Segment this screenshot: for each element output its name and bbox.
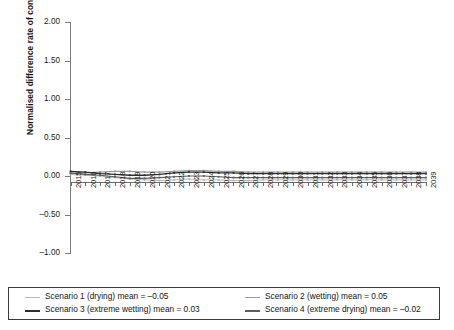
x-axis-tick	[352, 182, 353, 186]
series-marker	[410, 179, 412, 181]
x-axis-tick	[85, 182, 86, 186]
series-marker	[321, 177, 323, 179]
series-marker	[262, 173, 264, 175]
series-marker	[233, 172, 235, 174]
series-marker	[173, 172, 175, 174]
y-axis-tick	[65, 176, 71, 177]
series-marker	[114, 176, 116, 178]
x-axis-label: 2039	[429, 172, 438, 189]
x-axis-tick	[204, 182, 205, 186]
x-axis-label: 2027	[251, 172, 260, 189]
x-axis-label: 2036	[385, 172, 394, 189]
series-marker	[129, 174, 131, 176]
x-axis-tick	[130, 182, 131, 186]
series-marker	[158, 177, 160, 179]
y-axis-tick	[65, 215, 71, 216]
series-marker	[277, 173, 279, 175]
series-marker	[321, 179, 323, 181]
series-marker	[307, 177, 309, 179]
x-axis-tick	[100, 182, 101, 186]
x-axis-tick	[426, 182, 427, 186]
y-axis-label: 0.50	[0, 133, 60, 142]
x-axis-tick	[382, 182, 383, 186]
x-axis-label: 2038	[414, 172, 423, 189]
series-marker	[218, 170, 220, 172]
y-axis-tick	[65, 138, 71, 139]
series-marker	[262, 177, 264, 179]
series-marker	[262, 171, 264, 173]
x-axis-tick	[71, 182, 72, 186]
y-axis-label: 1.00	[0, 94, 60, 103]
series-marker	[173, 176, 175, 178]
x-axis-label: 2015	[74, 172, 83, 189]
series-marker	[307, 179, 309, 181]
series-marker	[321, 171, 323, 173]
series-marker	[188, 178, 190, 180]
y-axis-label: 0.00	[0, 171, 60, 180]
series-marker	[351, 171, 353, 173]
x-axis-tick	[337, 182, 338, 186]
x-axis-tick	[308, 182, 309, 186]
series-marker	[99, 173, 101, 175]
series-marker	[188, 171, 190, 173]
legend-label-scenario-1: Scenario 1 (drying) mean = –0.05	[45, 291, 168, 301]
x-axis-label: 2032	[326, 172, 335, 189]
x-axis-tick	[189, 182, 190, 186]
series-marker	[292, 173, 294, 175]
series-marker	[70, 172, 72, 174]
series-marker	[410, 177, 412, 179]
series-marker	[351, 179, 353, 181]
series-marker	[99, 171, 101, 173]
plot-area	[0, 0, 454, 330]
y-axis-tick	[65, 253, 71, 254]
x-axis-label: 2034	[355, 172, 364, 189]
series-marker	[381, 173, 383, 175]
series-marker	[410, 171, 412, 173]
series-marker	[292, 171, 294, 173]
series-marker	[351, 173, 353, 175]
series-marker	[233, 170, 235, 172]
x-axis-tick	[322, 182, 323, 186]
series-marker	[203, 170, 205, 172]
x-axis-tick	[293, 182, 294, 186]
series-marker	[262, 179, 264, 181]
series-marker	[144, 171, 146, 173]
series-marker	[84, 171, 86, 173]
legend-swatch-scenario-1	[25, 297, 40, 298]
x-axis-tick	[278, 182, 279, 186]
x-axis-tick	[233, 182, 234, 186]
x-axis-label: 2035	[370, 172, 379, 189]
series-marker	[381, 179, 383, 181]
series-marker	[144, 174, 146, 176]
legend-swatch-scenario-2	[245, 297, 260, 298]
series-marker	[336, 179, 338, 181]
series-marker	[336, 177, 338, 179]
series-marker	[425, 173, 427, 175]
x-axis-tick	[174, 182, 175, 186]
series-marker	[203, 179, 205, 181]
x-axis-tick	[396, 182, 397, 186]
x-axis-tick	[263, 182, 264, 186]
legend-label-scenario-4: Scenario 4 (extreme drying) mean = –0.02	[265, 304, 421, 314]
series-marker	[218, 172, 220, 174]
x-axis-label: 2017	[103, 172, 112, 189]
series-marker	[129, 177, 131, 179]
y-axis-tick	[65, 22, 71, 23]
series-marker	[218, 179, 220, 181]
series-marker	[99, 174, 101, 176]
series-marker	[114, 174, 116, 176]
x-axis-label: 2023	[192, 172, 201, 189]
x-axis-tick	[219, 182, 220, 186]
x-axis-label: 2037	[400, 172, 409, 189]
x-axis-label: 2026	[237, 172, 246, 189]
x-axis-label: 2022	[177, 172, 186, 189]
legend-label-scenario-2: Scenario 2 (wetting) mean = 0.05	[265, 291, 387, 301]
x-axis-tick	[159, 182, 160, 186]
y-axis-tick	[65, 99, 71, 100]
series-marker	[321, 173, 323, 175]
x-axis-label: 2021	[163, 172, 172, 189]
x-axis-label: 2020	[148, 172, 157, 189]
x-axis-label: 2028	[266, 172, 275, 189]
series-marker	[247, 177, 249, 179]
series-marker	[247, 171, 249, 173]
